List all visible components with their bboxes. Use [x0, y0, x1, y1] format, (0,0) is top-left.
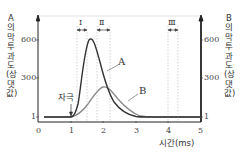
interval-arrows — [77, 29, 178, 31]
curve-b-label: B — [139, 86, 146, 96]
right-axis-label: B의 막 투과도(상댓값) — [224, 14, 234, 99]
x-axis-label: 시간(ms) — [159, 139, 194, 148]
x-tick-3: 3 — [134, 127, 139, 135]
curve-a-label: A — [118, 57, 125, 67]
left-tick-600: 600 — [21, 36, 36, 44]
x-tick-5: 5 — [198, 127, 203, 135]
left-tick-300: 300 — [21, 74, 36, 82]
x-tick-4: 4 — [166, 127, 171, 135]
left-tick-1: 1 — [31, 113, 36, 121]
membrane-permeability-chart: A의 막 투과도(상댓값) B의 막 투과도(상댓값) 600 300 1 60… — [0, 0, 240, 157]
right-tick-600: 600 — [204, 36, 219, 44]
x-tick-0: 0 — [36, 127, 41, 135]
x-tick-1: 1 — [69, 127, 74, 135]
interval-2-label: Ⅱ — [99, 19, 104, 27]
right-tick-1: 1 — [204, 113, 209, 121]
x-tick-2: 2 — [101, 127, 106, 135]
stimulus-label: 자극 — [58, 93, 74, 102]
interval-1-label: Ⅰ — [79, 19, 82, 27]
right-tick-300: 300 — [204, 74, 219, 82]
left-axis-label: A의 막 투과도(상댓값) — [6, 14, 16, 99]
curve-a — [44, 39, 201, 117]
interval-3-label: Ⅲ — [168, 19, 176, 27]
stimulus-arrow — [70, 104, 73, 116]
